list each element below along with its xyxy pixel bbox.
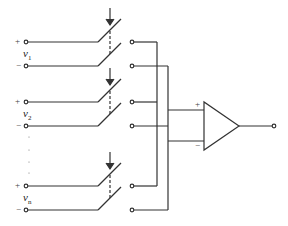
opamp-minus-label: − (195, 141, 200, 150)
input-2-label: v2 (23, 108, 31, 122)
input-2-minus: − (16, 121, 21, 130)
input-n-plus: + (15, 181, 20, 190)
circuit-diagram: + v1 − + v2 − + vn − + − (0, 0, 288, 226)
circuit-schematic (0, 0, 288, 226)
input-1-label: v1 (23, 48, 31, 62)
input-1-minus: − (16, 61, 21, 70)
input-1-plus: + (15, 37, 20, 46)
input-n-label: vn (23, 192, 31, 206)
opamp-plus-label: + (195, 100, 200, 109)
input-2-plus: + (15, 97, 20, 106)
input-2-switch (24, 68, 168, 128)
input-1-switch (24, 8, 168, 68)
input-n-switch (24, 152, 168, 212)
input-n-minus: − (16, 205, 21, 214)
opamp-symbol (204, 102, 239, 150)
